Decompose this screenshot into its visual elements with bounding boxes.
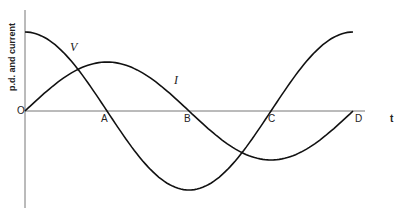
plot: [0, 0, 404, 214]
origin-label: O: [17, 105, 25, 116]
point-a: A: [101, 113, 108, 124]
i-label: I: [174, 73, 178, 88]
x-axis-label: t: [390, 113, 393, 124]
point-c: C: [268, 113, 275, 124]
y-axis-label: p.d. and current: [7, 23, 17, 91]
point-d: D: [355, 113, 362, 124]
point-b: B: [184, 113, 191, 124]
v-label: V: [70, 40, 77, 55]
diagram: p.d. and current O A B C D t V I: [0, 0, 404, 214]
